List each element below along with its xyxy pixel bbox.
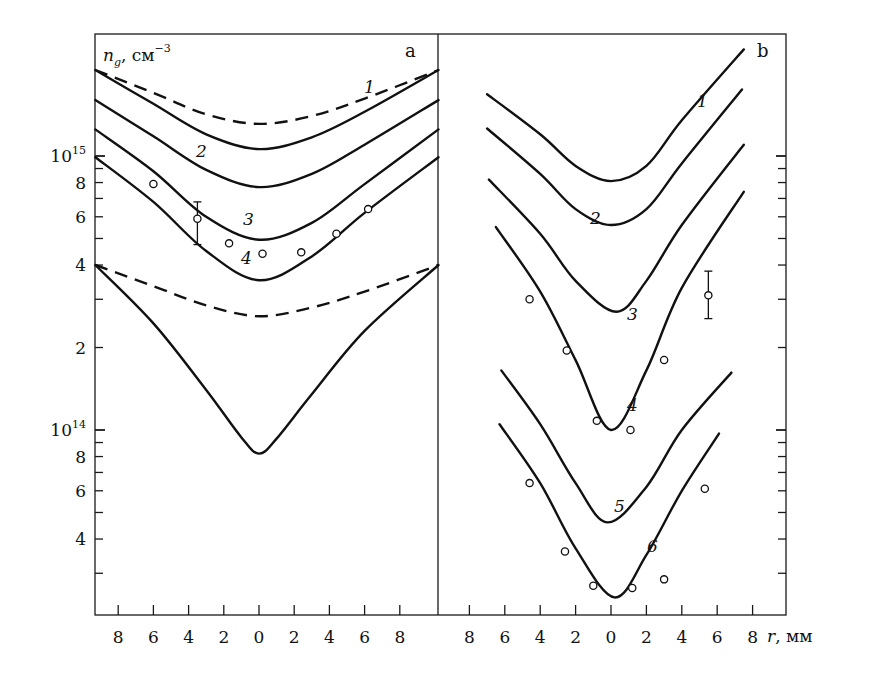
- x-tick-label-a: 8: [113, 627, 124, 647]
- x-tick-label-a: 2: [218, 627, 229, 647]
- data-point-marker: [593, 417, 600, 424]
- panel-a-curves: [95, 70, 438, 454]
- x-tick-label-b: 2: [641, 627, 652, 647]
- curve-a-4: [95, 157, 438, 280]
- curve-label-b-3: 3: [627, 304, 638, 324]
- data-point-marker: [661, 356, 668, 363]
- y-axis-units-exponent: −3: [155, 42, 171, 55]
- y-axis-title: ng, см−3: [103, 42, 171, 69]
- curve-label-b-5: 5: [614, 496, 625, 516]
- data-markers: [150, 180, 713, 591]
- y-axis-symbol: n: [103, 45, 114, 65]
- y-tick-label: 8: [75, 447, 86, 467]
- data-point-marker: [225, 240, 232, 247]
- data-point-marker: [590, 582, 597, 589]
- x-tick-label-a: 0: [254, 627, 265, 647]
- x-tick-label-b: 4: [535, 627, 546, 647]
- curve-a-3: [95, 129, 438, 239]
- data-point-marker: [661, 576, 668, 583]
- curve-label-a-4: 4: [240, 248, 252, 268]
- x-tick-label-b: 6: [712, 627, 723, 647]
- data-point-marker: [333, 230, 340, 237]
- data-point-marker: [194, 215, 201, 222]
- x-tick-label-b: 0: [606, 627, 617, 647]
- data-point-marker: [629, 584, 636, 591]
- y-tick-label: 1014: [50, 418, 86, 440]
- x-tick-label-a: 4: [324, 627, 335, 647]
- curve-label-b-4: 4: [626, 395, 638, 415]
- data-point-marker: [365, 206, 372, 213]
- chart-figure: 101586421014864864202468864202468 a b ng…: [0, 0, 871, 679]
- x-tick-label-b: 8: [464, 627, 475, 647]
- data-point-marker: [561, 548, 568, 555]
- data-point-marker: [150, 180, 157, 187]
- x-tick-label-b: 8: [747, 627, 758, 647]
- data-point-marker: [259, 250, 266, 257]
- curve-a-1: [95, 70, 438, 149]
- y-tick-label: 4: [75, 255, 86, 275]
- panel-label-b: b: [757, 40, 769, 61]
- y-tick-label: 1015: [50, 144, 86, 166]
- x-tick-label-a: 2: [289, 627, 300, 647]
- curve-a-6: [95, 265, 438, 454]
- curve-a-2: [95, 100, 438, 187]
- data-point-marker: [526, 480, 533, 487]
- x-tick-label-b: 4: [676, 627, 687, 647]
- y-tick-label: 6: [75, 207, 86, 227]
- curve-label-b-2: 2: [589, 208, 601, 228]
- data-point-marker: [705, 292, 712, 299]
- x-tick-label-a: 4: [183, 627, 194, 647]
- data-point-marker: [701, 485, 708, 492]
- data-point-marker: [526, 296, 533, 303]
- x-axis-title: r, мм: [767, 626, 812, 646]
- x-tick-label-a: 6: [359, 627, 370, 647]
- curve-b-5: [500, 424, 720, 597]
- curve-label-b-1: 1: [697, 91, 708, 111]
- curve-label-a-3: 3: [243, 209, 254, 229]
- data-point-marker: [627, 426, 634, 433]
- y-axis-units: , см: [121, 45, 155, 65]
- data-point-marker: [298, 249, 305, 256]
- y-axis-subscript: g: [114, 56, 121, 69]
- curve-label-b-6: 6: [647, 536, 658, 556]
- data-point-marker: [563, 347, 570, 354]
- curve-a-0: [95, 70, 438, 124]
- curve-label-a-1: 1: [364, 77, 375, 97]
- y-tick-label: 8: [75, 173, 86, 193]
- curve-label-a-2: 2: [195, 141, 207, 161]
- y-tick-label: 2: [75, 338, 86, 358]
- y-tick-label: 6: [75, 481, 86, 501]
- x-axis-units: , мм: [775, 626, 812, 646]
- panel-label-a: a: [405, 40, 416, 61]
- curve-b-2: [489, 145, 744, 312]
- x-tick-label-b: 2: [570, 627, 581, 647]
- x-tick-label-a: 6: [148, 627, 159, 647]
- y-tick-label: 4: [75, 529, 86, 549]
- x-tick-label-b: 6: [499, 627, 510, 647]
- tick-labels: 101586421014864864202468864202468: [50, 144, 758, 647]
- x-tick-label-a: 8: [394, 627, 405, 647]
